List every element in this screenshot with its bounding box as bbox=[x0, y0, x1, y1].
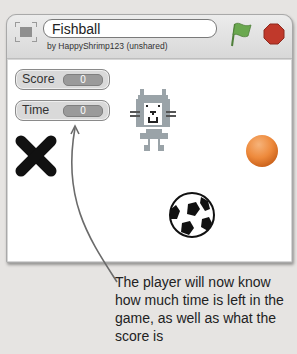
stage[interactable]: Score 0 Time 0 bbox=[8, 60, 291, 261]
orange-ball-sprite[interactable] bbox=[246, 135, 278, 167]
annotation-caption: The player will now know how much time i… bbox=[115, 273, 295, 345]
stop-icon[interactable] bbox=[263, 23, 285, 45]
time-label: Time bbox=[22, 103, 49, 117]
project-byline: by HappyShrimp123 (unshared) bbox=[47, 41, 167, 51]
scratch-player-window: Fishball by HappyShrimp123 (unshared) Sc… bbox=[6, 14, 293, 263]
score-value: 0 bbox=[63, 74, 103, 86]
score-label: Score bbox=[22, 72, 55, 86]
project-title-input[interactable]: Fishball bbox=[43, 19, 217, 38]
score-monitor: Score 0 bbox=[15, 69, 110, 90]
soccer-ball-sprite[interactable] bbox=[168, 191, 216, 239]
time-monitor: Time 0 bbox=[15, 100, 110, 121]
fullscreen-icon[interactable] bbox=[15, 22, 37, 42]
x-mark-sprite[interactable] bbox=[14, 134, 58, 178]
time-value: 0 bbox=[63, 105, 103, 117]
green-flag-icon[interactable] bbox=[229, 21, 253, 47]
cat-sprite[interactable] bbox=[130, 89, 178, 153]
player-header: Fishball by HappyShrimp123 (unshared) bbox=[7, 15, 292, 59]
